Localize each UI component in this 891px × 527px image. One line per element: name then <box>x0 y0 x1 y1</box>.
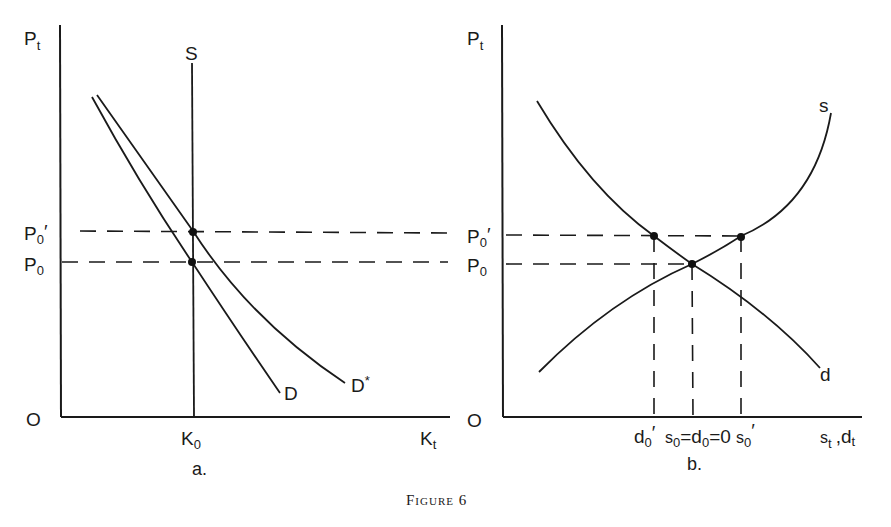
panel-b-y-axis <box>502 25 503 417</box>
panel-b-eq-dashed <box>692 264 693 417</box>
panel-b-supply-curve-label: s <box>819 95 829 116</box>
panel-b-origin-label: O <box>467 410 482 431</box>
panel-a-demand-curve-d <box>92 97 280 393</box>
panel-a-y-axis <box>60 25 61 417</box>
panel-b-demand-curve-label: d <box>820 364 831 385</box>
panel-a-title: a. <box>192 459 207 479</box>
panel-a: Pt S P0′ P0 O K0 Kt D D* a. <box>24 25 450 479</box>
panel-b-p0-prime-label: P0′ <box>467 224 491 250</box>
panel-b-x-axis-label: st,dt <box>820 426 855 451</box>
panel-b-title: b. <box>687 454 702 474</box>
panel-a-point-p0-prime <box>189 228 197 236</box>
panel-a-point-p0 <box>188 258 196 266</box>
panel-a-origin-label: O <box>26 409 41 430</box>
panel-b-p0-label: P0 <box>467 255 487 279</box>
panel-a-supply-label: S <box>185 43 198 64</box>
panel-b-tick-equilibrium: s0=d0=0 <box>665 426 731 450</box>
panel-a-demand-star-label: D* <box>351 373 370 396</box>
figure-caption: Figure 6 <box>406 492 467 508</box>
panel-b-y-axis-label: Pt <box>467 28 484 53</box>
panel-a-p0-label: P0 <box>24 254 44 278</box>
panel-a-p0-prime-dashed <box>80 231 448 233</box>
panel-a-x-axis-label: Kt <box>420 428 437 452</box>
panel-a-p0-prime-label: P0′ <box>24 221 48 247</box>
panel-b-demand-curve-d <box>537 101 820 368</box>
panel-b-supply-curve-s <box>539 113 831 372</box>
panel-b-point-d0-prime <box>650 232 658 240</box>
panel-b: Pt P0′ P0 O s d d0′ s0=d0=0 s0′ st,dt b. <box>467 25 862 474</box>
panel-a-y-axis-label: Pt <box>24 28 41 53</box>
panel-b-point-equilibrium <box>688 260 696 268</box>
panel-a-demand-curve-d-star <box>97 95 345 383</box>
panel-b-p0-prime-dashed <box>506 235 741 236</box>
panel-a-demand-label: D <box>284 383 298 404</box>
panel-a-supply-line <box>192 63 194 417</box>
panel-b-tick-s0-prime: s0′ <box>736 420 755 450</box>
panel-a-k0-label: K0 <box>181 428 201 452</box>
panel-b-point-s0-prime <box>737 233 745 241</box>
panel-b-tick-d0-prime: d0′ <box>634 422 656 450</box>
figure-6: Pt S P0′ P0 O K0 Kt D D* a. Pt P0′ P0 <box>0 0 891 527</box>
